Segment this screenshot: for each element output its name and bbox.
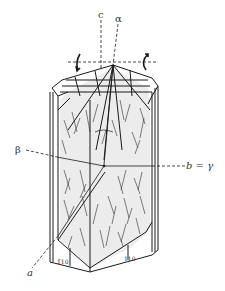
label-b-gamma: b = γ <box>186 161 213 171</box>
crystal-drawing <box>0 0 225 291</box>
label-a: a <box>27 268 33 278</box>
label-beta: β <box>15 145 21 155</box>
crystal-diagram: c α β b = γ a 1̄10 110 <box>0 0 225 291</box>
origin-point <box>103 165 106 168</box>
left-curved-arrow-icon <box>76 54 80 71</box>
label-alpha: α <box>115 14 122 24</box>
face-label-1bar10: 1̄10 <box>57 259 68 265</box>
label-c: c <box>98 10 104 20</box>
face-label-110: 110 <box>124 256 135 262</box>
